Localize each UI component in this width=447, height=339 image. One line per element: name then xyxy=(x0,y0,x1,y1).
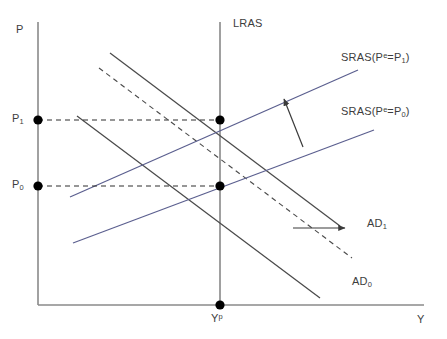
ad0-curve-main xyxy=(77,116,320,298)
sras-shift-arrow xyxy=(284,99,303,147)
sras-p0-label-mid: =P xyxy=(387,105,401,117)
potential-output-label: Yp xyxy=(211,313,223,324)
lras-label: LRAS xyxy=(233,18,263,29)
ad-dashed-curve xyxy=(99,68,352,258)
y-axis-label: P xyxy=(16,24,24,35)
p1-axis-label-text: P xyxy=(12,112,20,124)
potential-output-label-text: Y xyxy=(211,312,219,324)
ad0-label: AD0 xyxy=(352,276,372,288)
ad1-label: AD1 xyxy=(367,218,387,230)
ad1-label-sub: 1 xyxy=(383,222,387,231)
sras-p0-label-suffix: ) xyxy=(406,105,410,117)
sras-p1-label-suffix: ) xyxy=(406,51,410,63)
sras-p1-label-prefix: SRAS(P xyxy=(341,51,383,63)
ad0-label-sub: 0 xyxy=(368,280,372,289)
ad1-curve xyxy=(110,53,340,226)
ad-as-diagram: P Y LRAS SRAS(Pe=P1) SRAS(Pe=P0) AD1 AD0… xyxy=(0,0,447,339)
point-potential-output xyxy=(215,300,224,309)
ad0-label-text: AD xyxy=(352,275,368,287)
p1-axis-label-sub: 1 xyxy=(20,117,24,126)
sras-p0-label-prefix: SRAS(P xyxy=(341,105,383,117)
sras-p1-label: SRAS(Pe=P1) xyxy=(341,52,410,65)
ad1-label-text: AD xyxy=(367,217,383,229)
point-axis-p1 xyxy=(33,115,42,124)
p0-axis-label-text: P xyxy=(12,178,20,190)
potential-output-label-sup: p xyxy=(219,312,223,321)
sras-p1-curve xyxy=(70,70,358,197)
point-equilibrium-p1 xyxy=(215,115,224,124)
p0-axis-label-sub: 0 xyxy=(20,183,24,192)
p1-axis-label: P1 xyxy=(12,113,24,125)
point-axis-p0 xyxy=(33,181,42,190)
point-equilibrium-p0 xyxy=(215,181,224,190)
sras-p0-label: SRAS(Pe=P0) xyxy=(341,106,410,119)
p0-axis-label: P0 xyxy=(12,179,24,191)
x-axis-label: Y xyxy=(417,314,425,325)
sras-p1-label-mid: =P xyxy=(387,51,401,63)
